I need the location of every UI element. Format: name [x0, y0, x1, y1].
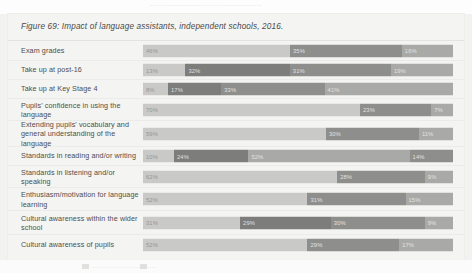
- bar-segment-value: 9%: [428, 174, 437, 180]
- bar-segment-value: 31%: [146, 220, 158, 226]
- bar-segment: 28%: [337, 170, 425, 183]
- bar-segment-value: 29%: [243, 220, 255, 226]
- bar-segment-value: 59%: [146, 131, 158, 137]
- bar-segment-value: 31%: [293, 67, 305, 73]
- bar-segment: 23%: [360, 103, 431, 116]
- bar-segment-value: 32%: [188, 67, 200, 73]
- bar-segment: 52%: [248, 150, 409, 163]
- bar-segment-value: 52%: [251, 153, 263, 159]
- stacked-bar: 46%35%16%: [143, 44, 453, 57]
- top-bleed-text: ........................................…: [150, 0, 262, 7]
- bar-segment: 17%: [168, 83, 221, 96]
- bar-segment: 33%: [221, 83, 324, 96]
- bar-segment: 16%: [402, 44, 453, 57]
- chart-row: Extending pupils' vocabulary and general…: [8, 121, 464, 147]
- bar-segment-value: 52%: [146, 242, 158, 248]
- bar-segment: 29%: [240, 216, 331, 229]
- chart-rows: Exam grades46%35%16%Take up at post-1613…: [8, 41, 464, 254]
- bar-segment-value: 41%: [328, 86, 340, 92]
- legend-caption-text: .............................: [92, 262, 156, 269]
- bar-segment-value: 46%: [146, 48, 158, 54]
- chart-row-label: Take up at Key Stage 4: [21, 84, 139, 94]
- bar-segment-value: 28%: [340, 174, 352, 180]
- bar-segment: 8%: [143, 83, 168, 96]
- figure-screenshot: ........................................…: [0, 0, 472, 273]
- bar-segment-value: 31%: [310, 196, 322, 202]
- chart-row: Pupils' confidence in using the language…: [8, 99, 464, 121]
- bar-segment-value: 9%: [428, 220, 437, 226]
- bar-segment: 11%: [419, 127, 453, 140]
- chart-row-label: Standards in listening and/or speaking: [21, 167, 139, 186]
- bar-segment-value: 35%: [293, 48, 305, 54]
- bar-segment: 13%: [143, 64, 185, 77]
- chart-row-label: Pupils' confidence in using the language: [21, 100, 139, 119]
- bar-segment-value: 19%: [394, 67, 406, 73]
- bar-segment-value: 10%: [146, 153, 158, 159]
- bar-segment: 46%: [143, 44, 290, 57]
- stacked-bar: 70%23%7%: [143, 103, 453, 116]
- stacked-bar: 52%29%17%: [143, 238, 453, 251]
- bar-segment: 17%: [399, 238, 453, 251]
- bar-segment: 24%: [174, 150, 248, 163]
- bar-segment-value: 33%: [224, 86, 236, 92]
- bar-segment-value: 7%: [434, 107, 443, 113]
- stacked-bar: 62%28%9%: [143, 170, 453, 183]
- chart-row: Cultural awareness of pupils52%29%17%: [8, 235, 464, 254]
- bar-segment-value: 23%: [363, 107, 375, 113]
- bar-segment: 62%: [143, 170, 337, 183]
- chart-row: Take up at post-1613%32%31%19%: [8, 61, 464, 80]
- bar-segment-value: 11%: [422, 131, 433, 137]
- chart-row: Exam grades46%35%16%: [8, 41, 464, 61]
- bar-segment-value: 30%: [334, 220, 346, 226]
- bar-segment: 19%: [391, 64, 453, 77]
- bar-segment: 41%: [325, 83, 453, 96]
- chart-row-label: Extending pupils' vocabulary and general…: [21, 119, 139, 148]
- bar-segment-value: 8%: [146, 86, 155, 92]
- stacked-bar: 13%32%31%19%: [143, 64, 453, 77]
- bar-segment: 31%: [290, 64, 391, 77]
- page-top-bleed: ........................................…: [0, 0, 472, 14]
- stacked-bar: 31%29%30%9%: [143, 216, 453, 229]
- bar-segment: 59%: [143, 127, 326, 140]
- chart-row-label: Cultural awareness of pupils: [21, 240, 139, 250]
- bar-segment: 31%: [143, 216, 240, 229]
- bar-segment: 10%: [143, 150, 174, 163]
- bar-segment: 29%: [307, 238, 399, 251]
- chart-row-label: Cultural awareness within the wider scho…: [21, 213, 139, 232]
- legend-strip: .............................: [0, 260, 472, 273]
- bar-segment-value: 30%: [329, 131, 341, 137]
- legend-swatch-1: [82, 264, 89, 269]
- chart-row-label: Standards in reading and/or writing: [21, 151, 139, 161]
- figure-title: Figure 69: Impact of language assistants…: [21, 22, 283, 31]
- bar-segment: 9%: [425, 170, 453, 183]
- bar-segment: 52%: [143, 193, 307, 206]
- bar-segment-value: 24%: [177, 153, 189, 159]
- bar-segment-value: 15%: [409, 196, 421, 202]
- bar-segment-value: 16%: [405, 48, 417, 54]
- bar-segment-value: 14%: [413, 153, 425, 159]
- chart-row-label: Take up at post-16: [21, 65, 139, 75]
- stacked-bar: 52%31%15%: [143, 193, 453, 206]
- chart-row: Standards in listening and/or speaking62…: [8, 166, 464, 188]
- chart-row: Cultural awareness within the wider scho…: [8, 211, 464, 235]
- bar-segment: 70%: [143, 103, 360, 116]
- bar-segment-value: 62%: [146, 174, 158, 180]
- stacked-bar: 59%30%11%: [143, 127, 453, 140]
- bar-segment: 35%: [290, 44, 402, 57]
- stacked-bar: 8%17%33%41%: [143, 83, 453, 96]
- chart-row-label: Exam grades: [21, 46, 139, 56]
- bar-segment: 30%: [326, 127, 419, 140]
- chart-row: Take up at Key Stage 48%17%33%41%: [8, 80, 464, 99]
- stacked-bar: 10%24%52%14%: [143, 150, 453, 163]
- bar-segment: 7%: [431, 103, 453, 116]
- figure-card: Figure 69: Impact of language assistants…: [8, 14, 464, 260]
- bar-segment-value: 17%: [171, 86, 183, 92]
- bar-segment: 31%: [307, 193, 405, 206]
- bar-segment: 52%: [143, 238, 307, 251]
- bar-segment-value: 29%: [310, 242, 322, 248]
- bar-segment-value: 17%: [402, 242, 414, 248]
- bar-segment: 14%: [410, 150, 453, 163]
- chart-row: Enthusiasm/motivation for language learn…: [8, 188, 464, 211]
- chart-row-label: Enthusiasm/motivation for language learn…: [21, 190, 139, 209]
- bar-segment-value: 70%: [146, 107, 158, 113]
